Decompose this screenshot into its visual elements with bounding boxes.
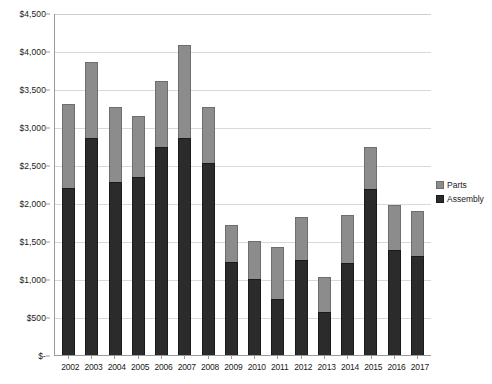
bar-segment-parts[interactable] [411,211,424,256]
bar-group[interactable] [109,14,122,355]
y-axis-tick-label: $500 [27,313,46,323]
bar-group[interactable] [248,14,261,355]
x-axis-tick-label: 2006 [154,357,167,377]
legend-item-assembly[interactable]: Assembly [436,194,484,204]
bar-segment-parts[interactable] [318,277,331,312]
y-axis: $4,500$4,000$3,500$3,000$2,500$2,000$1,5… [0,14,50,356]
x-axis-tick-label: 2012 [294,357,307,377]
x-axis-tick-label: 2017 [411,357,424,377]
bar-group[interactable] [202,14,215,355]
bar-group[interactable] [341,14,354,355]
y-axis-tickmark [46,52,50,53]
bar-group[interactable] [85,14,98,355]
y-axis-tick-label: $3,000 [19,123,46,133]
legend-swatch-icon [436,195,444,203]
x-axis-tick-label: 2014 [341,357,354,377]
y-axis-tickmark [46,318,50,319]
y-axis-tick-label: $3,500 [19,85,46,95]
y-axis-tickmark [46,128,50,129]
bar-segment-assembly[interactable] [248,279,261,355]
y-axis-tick-label: $4,000 [19,47,46,57]
bar-segment-parts[interactable] [202,107,215,163]
x-axis-tick-label: 2015 [364,357,377,377]
bar-group[interactable] [271,14,284,355]
y-axis-tick-label: $- [38,351,46,361]
bar-group[interactable] [225,14,238,355]
bar-segment-parts[interactable] [85,62,98,138]
bar-segment-parts[interactable] [132,116,145,178]
y-axis-tick-label: $2,000 [19,199,46,209]
y-axis-tick-label: $1,000 [19,275,46,285]
legend-item-label: Assembly [447,194,484,204]
bar-group[interactable] [411,14,424,355]
bar-group[interactable] [295,14,308,355]
x-axis-tick-label: 2007 [178,357,191,377]
bar-segment-assembly[interactable] [178,138,191,355]
y-axis-tickmark [46,356,50,357]
bar-segment-parts[interactable] [341,215,354,263]
bar-group[interactable] [155,14,168,355]
x-axis-tick-label: 2003 [84,357,97,377]
x-axis-tick-label: 2011 [271,357,284,377]
bar-segment-parts[interactable] [271,247,284,299]
bar-segment-assembly[interactable] [155,147,168,355]
legend-item-parts[interactable]: Parts [436,180,484,190]
chart-legend: PartsAssembly [436,180,484,204]
bar-group[interactable] [178,14,191,355]
bar-segment-parts[interactable] [248,241,261,279]
bar-segment-parts[interactable] [295,217,308,259]
x-axis-tick-label: 2009 [224,357,237,377]
y-axis-tickmark [46,280,50,281]
y-axis-tick-label: $2,500 [19,161,46,171]
y-axis-tickmark [46,90,50,91]
bar-segment-assembly[interactable] [364,189,377,355]
bar-segment-assembly[interactable] [85,138,98,355]
bar-series-container [55,14,431,355]
x-axis-tick-label: 2013 [318,357,331,377]
x-axis-tick-label: 2004 [108,357,121,377]
bar-segment-assembly[interactable] [132,177,145,355]
bar-segment-parts[interactable] [388,205,401,251]
bar-segment-parts[interactable] [155,81,168,146]
x-axis-tick-label: 2010 [248,357,261,377]
bar-segment-parts[interactable] [109,107,122,182]
bar-segment-parts[interactable] [225,225,238,262]
bar-group[interactable] [62,14,75,355]
x-axis-tick-label: 2008 [201,357,214,377]
y-axis-tickmark [46,166,50,167]
bar-group[interactable] [388,14,401,355]
bar-segment-assembly[interactable] [295,260,308,355]
legend-item-label: Parts [447,180,467,190]
x-axis-tick-label: 2005 [131,357,144,377]
bar-segment-assembly[interactable] [411,256,424,355]
x-axis-tick-label: 2016 [388,357,401,377]
bar-group[interactable] [364,14,377,355]
stacked-bar-chart: $4,500$4,000$3,500$3,000$2,500$2,000$1,5… [0,0,492,384]
y-axis-tick-label: $4,500 [19,9,46,19]
x-axis-tick-label: 2002 [61,357,74,377]
y-axis-tickmark [46,242,50,243]
bar-segment-assembly[interactable] [202,163,215,355]
bar-segment-assembly[interactable] [271,299,284,355]
bar-segment-parts[interactable] [62,104,75,188]
y-axis-tickmark [46,204,50,205]
bar-segment-assembly[interactable] [388,250,401,355]
y-axis-tick-label: $1,500 [19,237,46,247]
legend-swatch-icon [436,181,444,189]
y-axis-tickmark [46,14,50,15]
bar-segment-assembly[interactable] [62,188,75,355]
bar-segment-parts[interactable] [364,147,377,189]
x-axis: 2002200320042005200620072008200920102011… [54,357,431,377]
bar-segment-assembly[interactable] [109,182,122,355]
bar-segment-assembly[interactable] [318,312,331,355]
bar-group[interactable] [132,14,145,355]
bar-segment-parts[interactable] [178,45,191,138]
bar-group[interactable] [318,14,331,355]
plot-area [54,14,431,356]
bar-segment-assembly[interactable] [341,263,354,355]
bar-segment-assembly[interactable] [225,262,238,355]
